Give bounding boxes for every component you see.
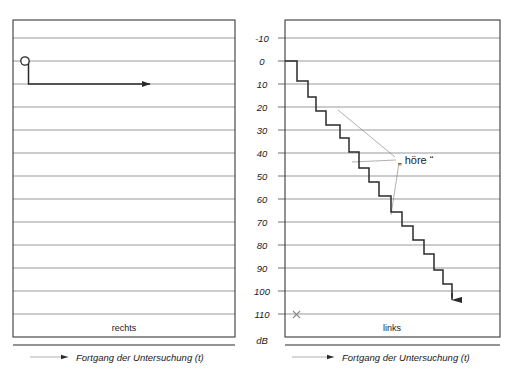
y-tick-10: 10: [257, 79, 268, 90]
panel-rechts: rechts: [13, 20, 235, 337]
gridlines-links: [285, 38, 500, 314]
y-tick-40: 40: [257, 148, 268, 159]
caption-links: Fortgang der Untersuchung (t): [285, 345, 500, 363]
caption-text-rechts: Fortgang der Untersuchung (t): [76, 352, 204, 363]
y-tick-50: 50: [257, 171, 268, 182]
audiogram-figure: rechts -10 0 10 20 30 40 50 60 70 80 90 …: [0, 0, 513, 369]
panel-label-rechts: rechts: [112, 323, 137, 333]
marker-circle-rechts: [21, 57, 29, 65]
y-tick-20: 20: [256, 102, 268, 113]
caption-text-links: Fortgang der Untersuchung (t): [342, 352, 470, 363]
caption-rechts: Fortgang der Untersuchung (t): [13, 345, 235, 363]
y-tick-90: 90: [257, 263, 268, 274]
y-tick-80: 80: [257, 240, 268, 251]
y-tick-60: 60: [257, 194, 268, 205]
gridlines-rechts: [13, 38, 235, 314]
y-tick-30: 30: [257, 125, 268, 136]
audiogram-svg: rechts -10 0 10 20 30 40 50 60 70 80 90 …: [0, 0, 513, 369]
y-axis-unit-label: dB: [256, 335, 268, 346]
y-tick-100: 100: [254, 286, 271, 297]
plot-frame-rechts: [13, 20, 235, 337]
y-tick-110: 110: [254, 309, 270, 320]
plot-frame-links: [285, 20, 500, 337]
threshold-trace-links: [285, 61, 452, 298]
y-tick-neg10: -10: [255, 33, 269, 44]
axis-ticks-links: [278, 38, 285, 314]
panel-links: „ höre “ links: [278, 20, 500, 337]
panel-label-links: links: [383, 323, 402, 333]
y-axis: -10 0 10 20 30 40 50 60 70 80 90 100 110…: [254, 33, 271, 347]
marker-x-links: [293, 311, 300, 318]
y-tick-70: 70: [257, 217, 268, 228]
y-tick-0: 0: [259, 56, 265, 67]
threshold-trace-rechts: [29, 61, 151, 84]
annotation-hoere: „ höre “: [398, 154, 434, 166]
